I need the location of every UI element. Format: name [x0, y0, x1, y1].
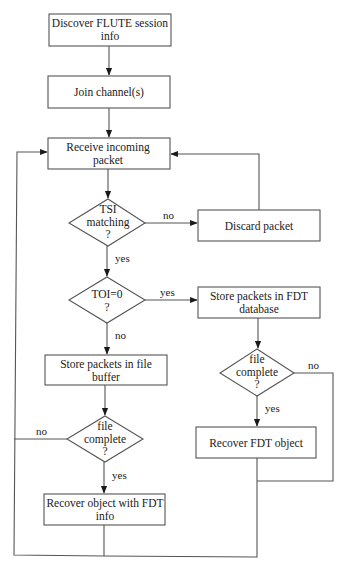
node-toi-decision: TOI=0 ? — [69, 277, 145, 323]
node-recover-object: Recover object with FDT info — [44, 494, 165, 525]
node-recover-fdt: Recover FDT object — [196, 427, 316, 458]
node-text: Discard packet — [225, 220, 294, 233]
node-text: Recover FDT object — [209, 437, 303, 450]
node-store-file: Store packets in file buffer — [45, 355, 167, 385]
node-text: ? — [105, 228, 110, 240]
node-text: ? — [102, 445, 107, 457]
node-text: info — [96, 510, 115, 522]
node-text: Store packets in file — [60, 358, 152, 371]
label-tsi-no: no — [163, 209, 175, 221]
node-tsi-decision: TSI matching ? — [69, 199, 145, 246]
node-text: database — [239, 303, 279, 315]
node-text: packet — [93, 154, 124, 167]
node-receive: Receive incoming packet — [48, 138, 170, 169]
node-text: Join channel(s) — [74, 86, 144, 99]
node-text: buffer — [92, 371, 120, 383]
node-join: Join channel(s) — [48, 76, 170, 108]
label-toi-no: no — [115, 329, 127, 341]
label-file-complete-no: no — [36, 425, 48, 437]
node-file-complete-decision: file complete ? — [67, 416, 143, 462]
node-text: Discover FLUTE session — [52, 17, 169, 29]
flowchart: Discover FLUTE session info Join channel… — [0, 0, 345, 574]
label-fdt-complete-no: no — [308, 359, 320, 371]
node-text: Store packets in FDT — [210, 290, 308, 303]
label-toi-yes: yes — [160, 286, 175, 298]
node-text: TOI=0 — [91, 288, 122, 300]
node-text: TSI — [99, 203, 116, 215]
node-text: ? — [104, 301, 109, 313]
node-text: file — [97, 420, 112, 432]
node-fdt-complete-decision: file complete ? — [220, 349, 294, 396]
node-discover: Discover FLUTE session info — [49, 14, 171, 46]
label-fdt-complete-yes: yes — [265, 402, 280, 414]
node-discard: Discard packet — [198, 210, 320, 241]
node-text: ? — [254, 378, 259, 390]
node-text: Recover object with FDT — [46, 497, 163, 510]
label-tsi-yes: yes — [115, 252, 130, 264]
node-text: Receive incoming — [66, 141, 150, 154]
node-text: file — [249, 353, 264, 365]
node-store-fdt: Store packets in FDT database — [198, 287, 320, 318]
label-file-complete-yes: yes — [112, 469, 127, 481]
edge-discard-receive — [171, 154, 259, 210]
node-text: info — [101, 30, 120, 42]
